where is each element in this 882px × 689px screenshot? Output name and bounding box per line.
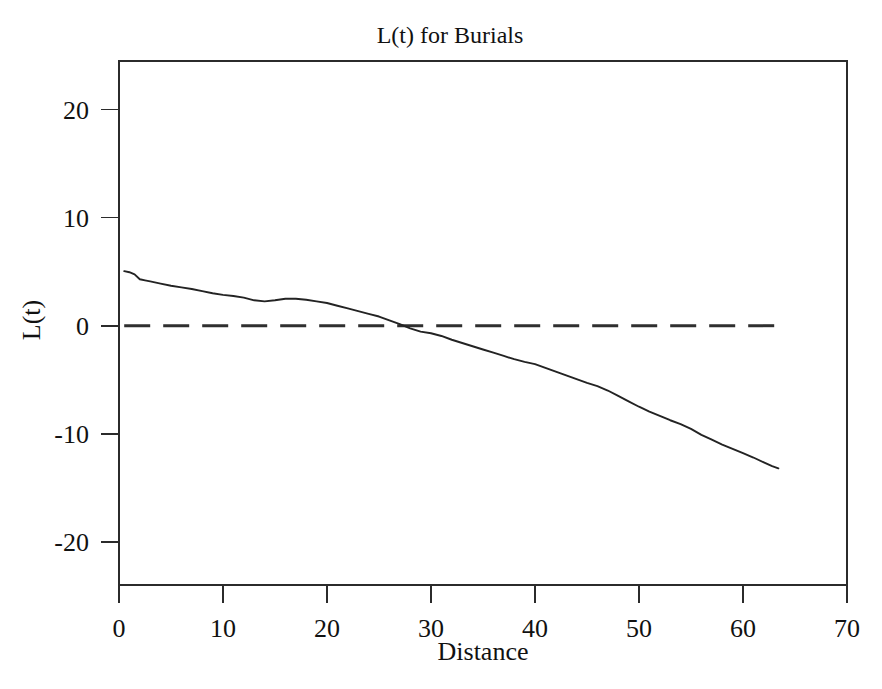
y-axis-ticks: 20100-10-20 — [54, 96, 119, 557]
x-tick-label: 50 — [626, 614, 652, 643]
chart-canvas: L(t) for Burials 20100-10-20 01020304050… — [0, 0, 882, 689]
chart-title: L(t) for Burials — [377, 22, 524, 48]
plot-frame — [119, 61, 847, 585]
x-tick-label: 70 — [834, 614, 860, 643]
x-axis-title: Distance — [438, 637, 529, 666]
y-tick-label: 0 — [76, 312, 89, 341]
y-tick-label: -20 — [54, 528, 89, 557]
x-axis-ticks: 010203040506070 — [113, 585, 861, 643]
y-tick-label: 20 — [63, 96, 89, 125]
lt-curve — [124, 271, 778, 468]
y-tick-label: 10 — [63, 204, 89, 233]
x-tick-label: 0 — [113, 614, 126, 643]
chart-figure: L(t) for Burials 20100-10-20 01020304050… — [0, 0, 882, 689]
x-tick-label: 10 — [210, 614, 236, 643]
x-tick-label: 20 — [314, 614, 340, 643]
y-axis-title: L(t) — [17, 300, 46, 340]
x-tick-label: 60 — [730, 614, 756, 643]
y-tick-label: -10 — [54, 420, 89, 449]
